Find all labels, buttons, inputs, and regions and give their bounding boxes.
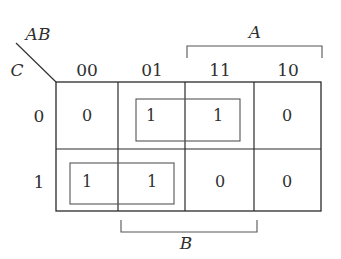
col-header: 10 xyxy=(277,62,299,79)
row-var-label: C xyxy=(10,62,23,79)
col-header: 00 xyxy=(76,62,98,79)
col-header: 01 xyxy=(141,62,163,79)
kmap-cell: 1 xyxy=(82,174,92,190)
bracket-a xyxy=(187,46,322,58)
kmap-cell: 0 xyxy=(82,108,92,124)
kmap-cell: 0 xyxy=(282,108,292,124)
grid-border xyxy=(56,82,321,211)
row-header: 0 xyxy=(34,108,45,125)
col-var-label: AB xyxy=(26,26,51,43)
bracket-a-label: A xyxy=(249,24,261,41)
kmap-cell: 1 xyxy=(147,174,157,190)
kmap-cell: 0 xyxy=(282,174,292,190)
bracket-b xyxy=(121,220,257,232)
karnaugh-map: AB C A B 00 01 11 10 0 1 0 1 1 0 1 1 0 0 xyxy=(0,0,341,259)
bracket-b-label: B xyxy=(180,235,193,252)
kmap-cell: 0 xyxy=(215,174,225,190)
row-header: 1 xyxy=(34,174,45,191)
kmap-cell: 1 xyxy=(146,108,156,124)
col-header: 11 xyxy=(209,62,231,79)
kmap-cell: 1 xyxy=(213,108,223,124)
kmap-lines xyxy=(0,0,341,259)
